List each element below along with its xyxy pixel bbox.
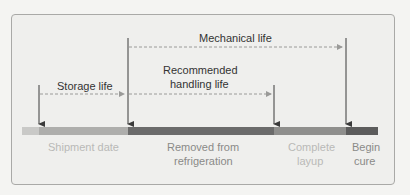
- removed-label-line2: refrigeration: [174, 155, 233, 168]
- begin-cure-label-line2: cure: [354, 155, 375, 168]
- storage-life-label: Storage life: [57, 80, 113, 93]
- timeline-bar: [22, 127, 378, 135]
- shipment-date-label: Shipment date: [48, 141, 119, 154]
- handling-life-label-line1: Recommended: [163, 64, 238, 77]
- complete-layup-label-line1: Complete: [288, 141, 335, 154]
- mechanical-life-label: Mechanical life: [199, 32, 272, 45]
- handling-life-label-line2: handling life: [170, 78, 229, 91]
- complete-layup-label-line2: layup: [297, 155, 323, 168]
- removed-label-line1: Removed from: [167, 141, 239, 154]
- begin-cure-label-line1: Begin: [352, 141, 380, 154]
